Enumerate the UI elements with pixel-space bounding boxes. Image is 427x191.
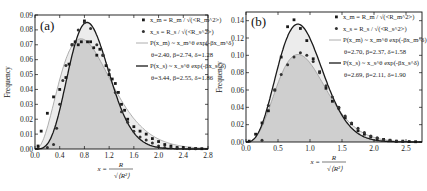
y-tick-label: 0.08 — [231, 68, 244, 77]
x-axis-label: x =R√⟨R²⟩ — [96, 161, 133, 180]
marker-circle — [357, 127, 360, 130]
y-axis-label: Frequency — [215, 61, 224, 93]
marker-circle — [337, 106, 340, 109]
y-tick-label: 0.04 — [20, 85, 33, 94]
marker-square — [117, 91, 120, 94]
panel-label: (a) — [40, 18, 54, 33]
marker-square — [52, 95, 55, 98]
legend-entry: P(x_m) ~ x_m^θ exp(-βx_m^δ) — [150, 39, 234, 47]
marker-circle — [139, 136, 142, 139]
marker-square — [92, 46, 95, 49]
marker-square — [280, 56, 283, 59]
legend-entry: θ=3.44, β=2.55, δ=1.86 — [151, 74, 214, 81]
legend-entry: x_m = R_m / √(<R_m^2>) — [343, 13, 414, 21]
x-tick-label: 2.0 — [369, 144, 379, 153]
marker-square — [77, 43, 80, 46]
marker-circle — [267, 104, 270, 107]
marker-circle — [318, 71, 321, 74]
chart-panel-b: 0.000.020.040.060.080.100.120.140.00.51.… — [215, 12, 427, 173]
y-tick-label: 0.06 — [20, 55, 33, 64]
y-tick-label: 0.10 — [231, 51, 244, 60]
x-tick-label: 0.4 — [55, 151, 65, 160]
marker-circle — [312, 60, 315, 63]
marker-square — [123, 109, 126, 112]
marker-circle — [344, 115, 347, 118]
marker-square — [68, 63, 71, 66]
legend-entry: x_s = R_s / √(<R_s^2>) — [150, 28, 214, 36]
x-tick-label: 0.5 — [273, 144, 283, 153]
marker-circle — [71, 43, 74, 46]
marker-square — [305, 39, 308, 42]
marker-circle — [64, 64, 67, 67]
marker-circle — [293, 56, 296, 59]
marker-square — [46, 112, 49, 115]
x-tick-label: 0.0 — [241, 144, 251, 153]
marker-square — [105, 64, 108, 67]
figure: 0.000.010.020.030.040.050.060.070.080.09… — [0, 0, 427, 191]
x-tick-label: 1.6 — [129, 151, 139, 160]
y-tick-label: 0.03 — [20, 100, 33, 109]
y-tick-label: 0.12 — [231, 34, 244, 43]
marker-circle — [261, 139, 264, 142]
marker-square — [145, 133, 148, 136]
legend-entry: θ=2.69, β=2.11, δ=1.90 — [344, 71, 406, 78]
y-tick-label: 0.06 — [231, 86, 244, 95]
y-tick-label: 0.04 — [231, 103, 244, 112]
marker-circle — [58, 103, 61, 106]
marker-circle — [389, 139, 392, 142]
marker-circle — [363, 131, 366, 134]
marker-square — [89, 40, 92, 43]
marker-square — [267, 109, 270, 112]
marker-circle — [280, 73, 283, 76]
marker-circle — [114, 91, 117, 94]
x-tick-label: 2.0 — [154, 151, 164, 160]
legend: x_m = R_m / √(<R_m^2>)x_s = R_s / √(<R_s… — [329, 13, 427, 78]
y-tick-label: 0.02 — [20, 115, 33, 124]
marker-square — [312, 57, 315, 60]
marker-circle — [61, 79, 64, 82]
marker-square — [114, 82, 117, 85]
y-tick-label: 0.14 — [231, 16, 244, 25]
marker-circle — [273, 89, 276, 92]
y-tick-label: 0.09 — [20, 11, 33, 20]
marker-square — [95, 54, 98, 57]
marker-circle — [376, 136, 379, 139]
svg-text:√⟨R²⟩: √⟨R²⟩ — [327, 165, 343, 173]
y-tick-label: 0.05 — [20, 70, 33, 79]
x-tick-label: 2.8 — [203, 151, 213, 160]
chart-panel-a: 0.000.010.020.030.040.050.060.070.080.09… — [3, 11, 234, 181]
marker-circle — [305, 54, 308, 57]
x-axis-label: x =R√⟨R²⟩ — [309, 154, 346, 173]
x-tick-label: 2.4 — [179, 151, 189, 160]
marker-square — [111, 78, 114, 81]
x-tick-label: 0.8 — [80, 151, 90, 160]
marker-circle — [299, 51, 302, 54]
marker-circle — [132, 130, 135, 133]
marker-square — [58, 88, 61, 91]
x-tick-label: 1.5 — [337, 144, 347, 153]
marker-circle — [382, 138, 385, 141]
svg-text:R: R — [118, 161, 124, 169]
y-tick-label: 0.07 — [20, 40, 33, 49]
marker-circle — [108, 69, 111, 72]
legend-entry: P(x_m) ~ x_m^θ exp(-βx_m^δ) — [343, 36, 427, 44]
svg-text:√⟨R²⟩: √⟨R²⟩ — [114, 172, 130, 180]
marker-circle — [55, 127, 58, 130]
marker-square — [286, 25, 289, 28]
legend-entry: x_s = R_s / √(<R_s^2>) — [343, 25, 407, 33]
marker-square — [293, 18, 296, 21]
marker-square — [80, 40, 83, 43]
marker-square — [98, 48, 101, 51]
svg-text:x =: x = — [96, 165, 107, 173]
legend-entry: θ=2.40, β=2.74, δ=1.28 — [151, 51, 214, 58]
legend-entry: P(x_s) ~ x_s^θ exp(-βx_s^δ) — [343, 59, 419, 67]
marker-square — [163, 143, 166, 146]
marker-circle — [77, 28, 80, 31]
marker-circle — [151, 142, 154, 145]
marker-square — [64, 76, 67, 79]
marker-square — [261, 122, 264, 125]
y-tick-label: 0.08 — [20, 25, 33, 34]
marker-circle — [369, 134, 372, 137]
marker-square — [132, 125, 135, 128]
marker-circle — [350, 121, 353, 124]
